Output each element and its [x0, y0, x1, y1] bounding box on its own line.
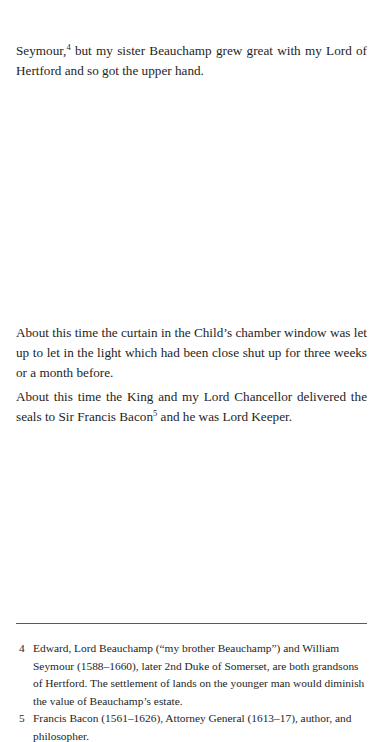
paragraph-text: Seymour, [16, 43, 66, 58]
footnote-text: Francis Bacon (1561–1626), Attorney Gene… [33, 710, 367, 742]
footnote-number: 4 [16, 640, 33, 710]
document-page: Seymour,4 but my sister Beauchamp grew g… [0, 0, 380, 742]
footnote: 4 Edward, Lord Beauchamp (“my brother Be… [16, 640, 367, 710]
paragraph-text: About this time the curtain in the Child… [16, 325, 367, 380]
footnote-number: 5 [16, 710, 33, 742]
paragraph-text: and he was Lord Keeper. [157, 409, 292, 424]
footnote-text: Edward, Lord Beauchamp (“my brother Beau… [33, 640, 367, 710]
footnote: 5 Francis Bacon (1561–1626), Attorney Ge… [16, 710, 367, 742]
footnotes-section: 4 Edward, Lord Beauchamp (“my brother Be… [16, 640, 367, 742]
body-paragraph: Seymour,4 but my sister Beauchamp grew g… [16, 41, 367, 81]
body-paragraph: About this time the King and my Lord Cha… [16, 387, 367, 427]
footnote-divider [16, 623, 367, 624]
body-paragraph: About this time the curtain in the Child… [16, 323, 367, 383]
